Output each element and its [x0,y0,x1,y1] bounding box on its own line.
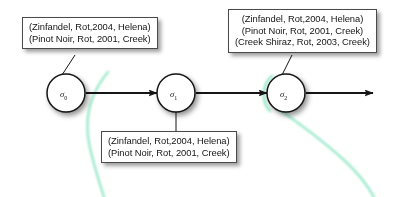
node-label-s0: σ0 [60,89,67,101]
annotation-box-s0[interactable]: (Zinfandel, Rot,2004, Helena) (Pinot Noi… [22,17,158,49]
accent-curve-right [277,108,374,197]
annotation-line: (Pinot Noir, Rot, 2001, Creek) [235,25,370,37]
annotation-line: (Creek Shiraz, Rot, 2003, Creek) [235,36,370,48]
annotation-line: (Pinot Noir, Rot, 2001, Creek) [108,147,230,159]
diagram-canvas: σ0 σ1 σ2 (Zinfandel, Rot,2004, Helena) (… [0,0,397,197]
annotation-box-s2[interactable]: (Zinfandel, Rot,2004, Helena) (Pinot Noi… [228,9,377,53]
annotation-line: (Zinfandel, Rot,2004, Helena) [29,21,151,33]
annotation-line: (Zinfandel, Rot,2004, Helena) [108,135,230,147]
node-label-s1: σ1 [170,89,177,101]
annotation-line: (Zinfandel, Rot,2004, Helena) [235,13,370,25]
leader-line-s0 [62,55,75,75]
annotation-box-s1[interactable]: (Zinfandel, Rot,2004, Helena) (Pinot Noi… [101,131,237,163]
node-label-s2: σ2 [280,89,287,101]
annotation-line: (Pinot Noir, Rot, 2001, Creek) [29,33,151,45]
leader-line-s2 [282,55,292,75]
